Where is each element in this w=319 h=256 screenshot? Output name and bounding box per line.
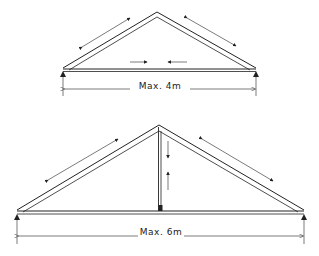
- right-rafter-force-arrow: [202, 139, 273, 181]
- support-icon: [14, 214, 20, 220]
- support-icon: [301, 214, 307, 220]
- large-truss-outer-rafters: [17, 125, 304, 210]
- right-rafter-force-arrow: [187, 18, 236, 46]
- small-span-label: Max. 4m: [139, 81, 181, 91]
- small-truss: Max. 4m: [60, 12, 259, 96]
- king-post-connector: [159, 205, 163, 211]
- large-span-label: Max. 6m: [140, 227, 182, 237]
- small-truss-outer-rafters: [63, 12, 256, 68]
- left-rafter-force-arrow: [48, 139, 118, 180]
- large-truss: Max. 6m: [14, 125, 307, 244]
- small-truss-inner-rafters: [69, 17, 250, 70]
- truss-diagram: Max. 4m Max. 6m: [0, 0, 319, 256]
